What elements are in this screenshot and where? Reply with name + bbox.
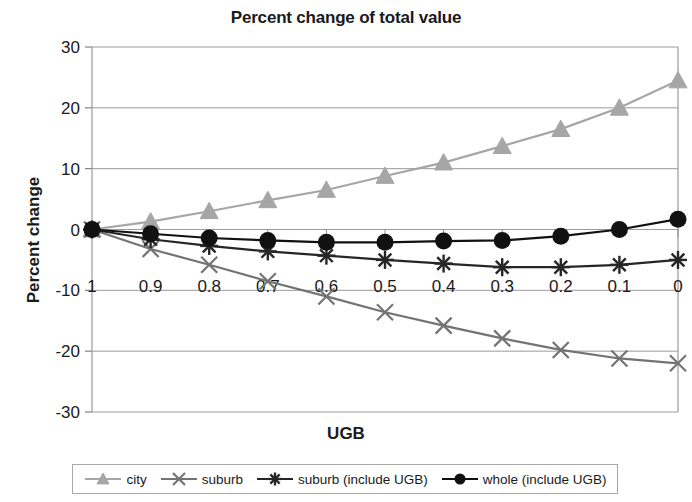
plot-area: 3020100-10-20-3010.90.80.70.60.50.40.30.… xyxy=(0,0,692,460)
y-tick-label: -20 xyxy=(55,342,80,361)
marker-triangle xyxy=(610,99,628,115)
y-tick-label: 30 xyxy=(61,38,80,57)
x-tick-label: 0.2 xyxy=(549,277,573,296)
x-tick-label: 0.6 xyxy=(315,277,339,296)
marker-circle xyxy=(552,228,569,245)
y-tick-label: 0 xyxy=(71,221,80,240)
y-tick-label: 20 xyxy=(61,99,80,118)
marker-circle xyxy=(611,221,628,238)
chart-legend: citysuburbsuburb (include UGB)whole (inc… xyxy=(72,464,618,494)
legend-label: city xyxy=(126,472,146,487)
legend-item-suburb-include-ugb-[interactable]: suburb (include UGB) xyxy=(255,471,428,487)
y-tick-label: -30 xyxy=(55,403,80,422)
legend-item-suburb[interactable]: suburb xyxy=(159,471,243,487)
legend-label: whole (include UGB) xyxy=(483,472,607,487)
series-city xyxy=(83,71,687,236)
x-tick-label: 0.8 xyxy=(197,277,221,296)
marker-circle xyxy=(670,211,687,228)
marker-circle xyxy=(142,225,159,242)
marker-circle xyxy=(84,221,101,238)
x-tick-label: 0.1 xyxy=(608,277,632,296)
marker-circle xyxy=(435,233,452,250)
marker-circle xyxy=(377,234,394,251)
x-tick-label: 0.3 xyxy=(490,277,514,296)
x-tick-label: 0.9 xyxy=(139,277,163,296)
legend-marker xyxy=(454,474,465,485)
y-tick-label: 10 xyxy=(61,160,80,179)
marker-circle xyxy=(494,232,511,249)
legend-label: suburb (include UGB) xyxy=(298,472,428,487)
x-tick-label: 0.5 xyxy=(373,277,397,296)
legend-item-city[interactable]: city xyxy=(83,471,146,487)
legend-swatch xyxy=(159,471,199,487)
marker-triangle xyxy=(552,120,570,136)
series-line xyxy=(92,80,678,229)
y-tick-label: -10 xyxy=(55,281,80,300)
chart-container: Percent change of total value Percent ch… xyxy=(0,0,692,502)
marker-circle xyxy=(259,232,276,249)
legend-swatch xyxy=(255,471,295,487)
legend-item-whole-include-ugb-[interactable]: whole (include UGB) xyxy=(440,471,607,487)
marker-circle xyxy=(454,474,465,485)
legend-marker xyxy=(268,473,281,486)
x-tick-label: 0 xyxy=(673,277,682,296)
x-tick-label: 1 xyxy=(87,277,96,296)
legend-label: suburb xyxy=(202,472,243,487)
marker-circle xyxy=(201,230,218,247)
x-tick-label: 0.4 xyxy=(432,277,456,296)
marker-triangle xyxy=(669,71,687,87)
marker-circle xyxy=(318,234,335,251)
legend-swatch xyxy=(440,471,480,487)
legend-swatch xyxy=(83,471,123,487)
